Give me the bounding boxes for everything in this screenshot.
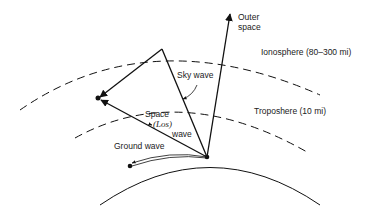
ground-wave-label: Ground wave — [114, 141, 165, 151]
sky-wave-pointer — [183, 85, 197, 99]
space-wave-pointer — [149, 124, 152, 125]
outer-space-label-2: space — [238, 22, 261, 32]
transmitter-dot — [205, 155, 210, 160]
receiver-dot — [96, 96, 101, 101]
sky-wave-up — [162, 49, 207, 157]
propagation-diagram: Outer space Ionosphere (80–300 mi) Tropo… — [0, 0, 373, 208]
earth-surface — [100, 168, 320, 206]
troposphere-label: Troposhere (10 mi) — [254, 106, 326, 116]
outer-space-label: Outer — [238, 12, 259, 22]
ground-receiver-dot — [128, 164, 133, 169]
ground-wave-path — [132, 155, 207, 163]
sky-wave-label: Sky wave — [177, 70, 214, 80]
ionosphere-label: Ionosphere (80–300 mi) — [261, 47, 351, 57]
space-wave-label-3: wave — [171, 129, 192, 139]
space-wave-los-label: (Los) — [153, 119, 172, 129]
outer-space-ray — [207, 14, 230, 157]
sky-wave-down — [100, 49, 162, 97]
space-wave-label: Space — [145, 109, 169, 119]
